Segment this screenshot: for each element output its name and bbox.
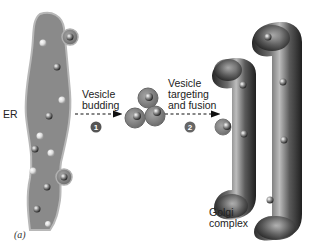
er-membrane [26, 13, 78, 230]
golgi-complex-label: Golgi complex [209, 207, 248, 229]
vesicle-budding-label: Vesicle budding [82, 89, 119, 111]
transport-vesicles [125, 88, 165, 128]
vesicle-targeting-label: Vesicle targeting and fusion [168, 78, 216, 111]
step-badge-1-number: 1 [94, 123, 99, 132]
golgi-cisterna-back [252, 22, 302, 240]
step-badge-2-number: 2 [188, 123, 193, 132]
figure-caption: (a) [14, 229, 26, 240]
golgi-cisterna-front [212, 58, 256, 220]
er-label: ER [3, 109, 18, 120]
vesicle-transport-diagram: 1 2 [0, 0, 321, 242]
